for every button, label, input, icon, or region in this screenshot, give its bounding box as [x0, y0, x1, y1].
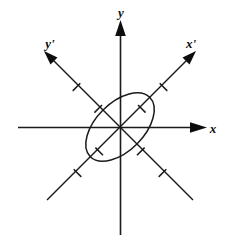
coordinate-figure: x y x' y' — [0, 0, 247, 249]
y-prime-axis-line — [52, 59, 193, 200]
figure-canvas: x y x' y' — [0, 0, 247, 249]
x-prime-axis-line — [47, 59, 188, 200]
y-prime-axis-label: y' — [43, 36, 55, 51]
y-axis-arrowhead — [115, 20, 126, 36]
x-axis-group — [18, 122, 207, 133]
x-axis-arrowhead — [190, 122, 207, 133]
y-prime-axis-group — [44, 51, 193, 200]
x-prime-axis-label: x' — [185, 36, 197, 51]
x-prime-axis-group — [47, 51, 196, 200]
y-axis-label: y — [116, 5, 124, 20]
x-axis-label: x — [209, 121, 217, 136]
